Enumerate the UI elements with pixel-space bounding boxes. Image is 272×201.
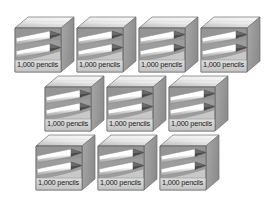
box-row-3: 1,000 pencils <box>35 134 221 191</box>
pencil-box-icon <box>168 75 229 132</box>
pencil-box: 1,000 pencils <box>14 16 75 73</box>
box-row-1: 1,000 pencils <box>14 16 262 73</box>
pencil-box: 1,000 pencils <box>35 134 96 191</box>
pencil-box: 1,000 pencils <box>200 16 261 73</box>
pencil-box: 1,000 pencils <box>138 16 199 73</box>
pencil-box-icon <box>35 134 96 191</box>
pencil-box: 1,000 pencils <box>106 75 167 132</box>
pencil-box-icon <box>138 16 199 73</box>
illustration-canvas: 1,000 pencils <box>0 0 272 201</box>
box-row-2: 1,000 pencils <box>44 75 230 132</box>
pencil-box: 1,000 pencils <box>159 134 220 191</box>
pencil-box: 1,000 pencils <box>76 16 137 73</box>
pencil-box: 1,000 pencils <box>168 75 229 132</box>
pencil-box: 1,000 pencils <box>97 134 158 191</box>
pencil-box-icon <box>76 16 137 73</box>
pencil-box-icon <box>97 134 158 191</box>
pencil-box-icon <box>200 16 261 73</box>
pencil-box-icon <box>159 134 220 191</box>
pencil-box-icon <box>14 16 75 73</box>
pencil-box-icon <box>44 75 105 132</box>
pencil-box-icon <box>106 75 167 132</box>
pencil-box: 1,000 pencils <box>44 75 105 132</box>
